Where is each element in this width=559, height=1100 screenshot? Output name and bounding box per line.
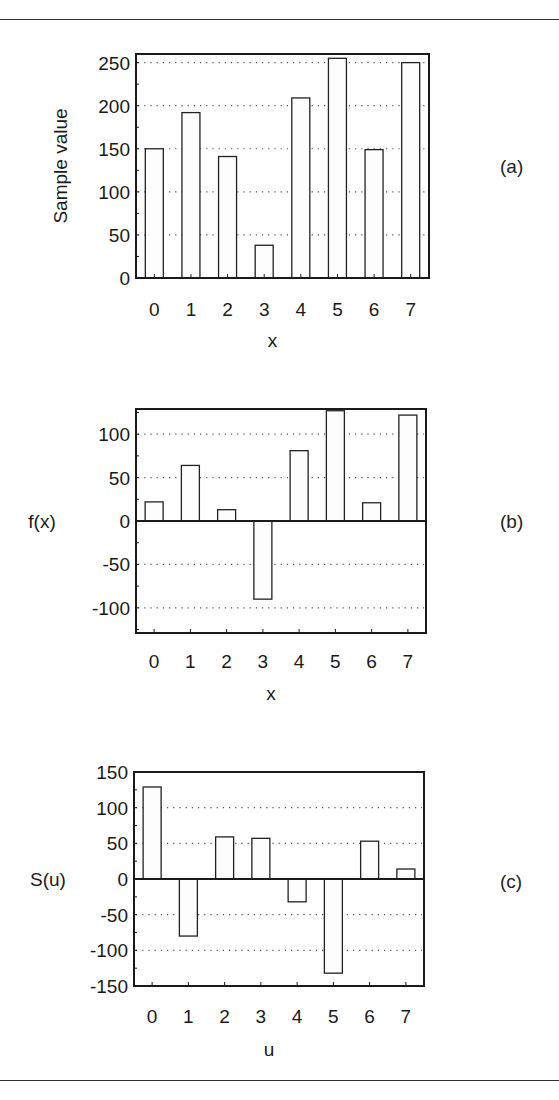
x-tick-label: 0 [147, 1006, 158, 1027]
x-tick-label: 2 [222, 299, 233, 320]
y-tick-label: 250 [98, 53, 130, 74]
x-tick-label: 5 [328, 1006, 339, 1027]
y-tick-label: -150 [90, 976, 128, 997]
x-axis-label: x [268, 330, 278, 351]
y-tick-label: 50 [109, 225, 130, 246]
x-tick-label: 7 [403, 651, 414, 672]
bar-6 [363, 503, 381, 521]
x-tick-label: 7 [405, 299, 416, 320]
x-tick-label: 5 [330, 651, 341, 672]
bar-5 [328, 58, 346, 278]
y-tick-label: 100 [98, 182, 130, 203]
bar-1 [181, 465, 199, 521]
panel-label-a: (a) [500, 156, 523, 178]
bar-6 [361, 841, 379, 879]
bar-7 [397, 869, 415, 879]
y-tick-label: 0 [119, 511, 130, 532]
bar-1 [182, 113, 200, 278]
x-tick-label: 7 [401, 1006, 412, 1027]
x-axis-label: u [264, 1039, 275, 1060]
bar-7 [399, 415, 417, 521]
y-tick-label: -100 [90, 940, 128, 961]
bar-5 [326, 411, 344, 521]
bar-1 [179, 879, 197, 936]
panel-label-c: (c) [500, 871, 522, 893]
bar-2 [219, 157, 237, 278]
x-axis-label: x [266, 683, 276, 704]
figure: 01234567050100150200250xSample value 012… [0, 0, 559, 1100]
x-tick-label: 6 [364, 1006, 375, 1027]
y-axis-label: Sample value [50, 108, 71, 223]
x-tick-label: 0 [149, 299, 160, 320]
y-tick-label: 150 [98, 139, 130, 160]
y-tick-label: 100 [98, 424, 130, 445]
y-tick-label: -50 [101, 905, 128, 926]
bar-5 [324, 879, 342, 973]
chart-sample-values: 01234567050100150200250xSample value [50, 53, 429, 351]
bar-7 [402, 63, 420, 278]
x-tick-label: 5 [332, 299, 343, 320]
x-tick-label: 4 [292, 1006, 303, 1027]
y-tick-label: 50 [109, 468, 130, 489]
chart-level-shifted: 01234567-100-50050100xf(x) [28, 409, 426, 704]
bar-0 [145, 149, 163, 278]
bar-4 [290, 451, 308, 521]
y-axis-label: S(u) [30, 869, 66, 890]
x-tick-label: 6 [369, 299, 380, 320]
x-tick-label: 3 [256, 1006, 267, 1027]
y-tick-label: 150 [96, 762, 128, 783]
x-tick-label: 4 [296, 299, 307, 320]
y-tick-label: -50 [103, 554, 130, 575]
x-tick-label: 6 [366, 651, 377, 672]
y-tick-label: 100 [96, 798, 128, 819]
bar-2 [218, 510, 236, 521]
bar-6 [365, 150, 383, 278]
x-tick-label: 2 [221, 651, 232, 672]
bar-3 [254, 521, 272, 599]
bar-0 [145, 502, 163, 521]
bar-4 [292, 98, 310, 278]
x-tick-label: 0 [149, 651, 160, 672]
x-tick-label: 3 [258, 651, 269, 672]
x-tick-label: 2 [219, 1006, 230, 1027]
y-tick-label: 0 [119, 268, 130, 289]
bar-0 [143, 787, 161, 879]
x-tick-label: 1 [186, 299, 197, 320]
x-tick-label: 1 [185, 651, 196, 672]
x-tick-label: 4 [294, 651, 305, 672]
bar-2 [216, 837, 234, 879]
y-tick-label: 200 [98, 96, 130, 117]
panel-label-b: (b) [500, 511, 523, 533]
y-tick-label: 50 [107, 833, 128, 854]
plot-frame [136, 54, 429, 278]
x-tick-label: 1 [183, 1006, 194, 1027]
bar-4 [288, 879, 306, 902]
bar-3 [255, 245, 273, 278]
chart-dct-coefficients: 01234567-150-100-50050100150uS(u) [30, 762, 424, 1060]
y-tick-label: -100 [92, 598, 130, 619]
x-tick-label: 3 [259, 299, 270, 320]
y-axis-label: f(x) [28, 511, 55, 532]
y-tick-label: 0 [117, 869, 128, 890]
bar-3 [252, 838, 270, 879]
